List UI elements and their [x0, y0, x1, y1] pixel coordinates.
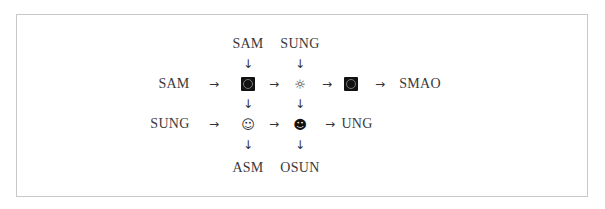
- bottom-label-col2: OSUN: [280, 161, 319, 175]
- arrow-down-icon: ↓: [243, 58, 253, 70]
- arrow-down-icon: ↓: [295, 98, 305, 110]
- arrow-right-icon: →: [375, 78, 385, 90]
- arrow-right-icon: →: [325, 118, 335, 130]
- arrow-right-icon: →: [322, 78, 332, 90]
- arrow-down-icon: ↓: [243, 98, 253, 110]
- black-square-circle-icon: [241, 77, 255, 91]
- arrow-right-icon: →: [269, 118, 279, 130]
- row2-output-label: UNG: [341, 117, 372, 131]
- arrow-down-icon: ↓: [243, 139, 253, 151]
- arrow-right-icon: →: [269, 78, 279, 90]
- arrow-down-icon: ↓: [295, 58, 305, 70]
- top-label-col1: SAM: [232, 37, 263, 51]
- arrow-down-icon: ↓: [295, 139, 305, 151]
- arrow-right-icon: →: [209, 78, 219, 90]
- white-smiley-icon: ☺: [241, 118, 255, 131]
- row1-input-label: SAM: [158, 77, 189, 91]
- black-smiley-icon: ☻: [293, 118, 307, 131]
- sun-icon: ☼: [294, 78, 306, 91]
- arrow-right-icon: →: [209, 118, 219, 130]
- row2-input-label: SUNG: [150, 117, 189, 131]
- bottom-label-col1: ASM: [232, 161, 263, 175]
- top-label-col2: SUNG: [280, 37, 319, 51]
- row1-output-label: SMAO: [399, 77, 441, 91]
- black-square-circle-icon: [344, 77, 358, 91]
